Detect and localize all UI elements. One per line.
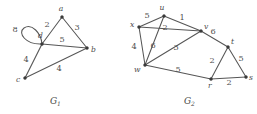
weighted-graph-figure: a b c d 2 3 5 4 4 8 G 1 bbox=[0, 0, 257, 114]
weight-x-u: 5 bbox=[144, 10, 149, 20]
vertex-label-r: r bbox=[208, 81, 212, 90]
vertex-b bbox=[86, 47, 89, 50]
vertex-c bbox=[24, 77, 27, 80]
vertex-x bbox=[138, 26, 141, 29]
weight-v-t: 6 bbox=[210, 26, 215, 36]
graph-g2: x u v w t s r 5 1 2 4 6 3 6 5 2 5 2 G 2 bbox=[130, 3, 253, 107]
weight-d-a: 2 bbox=[44, 19, 49, 29]
vertex-u bbox=[163, 15, 166, 18]
weight-u-v: 1 bbox=[179, 12, 184, 22]
vertex-label-c: c bbox=[16, 75, 21, 84]
weight-loop-d: 8 bbox=[12, 24, 17, 34]
weight-w-r: 5 bbox=[175, 64, 180, 74]
weight-w-v: 3 bbox=[173, 42, 178, 52]
caption-g1-subscript: 1 bbox=[57, 100, 61, 107]
vertex-label-b: b bbox=[91, 45, 96, 54]
weight-u-w: 2 bbox=[162, 22, 167, 32]
vertex-label-v: v bbox=[204, 22, 209, 31]
edge-d-b bbox=[42, 44, 87, 48]
graph-g1: a b c d 2 3 5 4 4 8 G 1 bbox=[12, 4, 96, 107]
vertex-d bbox=[41, 43, 44, 46]
vertex-label-u: u bbox=[160, 3, 165, 12]
weight-a-b: 3 bbox=[74, 22, 79, 32]
vertex-label-w: w bbox=[134, 65, 141, 74]
vertex-w bbox=[144, 64, 147, 67]
weight-d-c: 4 bbox=[23, 54, 28, 64]
vertex-label-t: t bbox=[231, 37, 235, 46]
weight-r-s: 2 bbox=[226, 77, 231, 87]
vertex-label-x: x bbox=[130, 20, 135, 29]
vertex-label-d: d bbox=[38, 31, 43, 40]
weight-d-b: 5 bbox=[59, 34, 64, 44]
vertex-label-a: a bbox=[59, 4, 64, 13]
weight-t-r: 2 bbox=[209, 55, 214, 65]
weight-c-b: 4 bbox=[56, 63, 61, 73]
edge-x-w bbox=[139, 27, 145, 65]
graph-canvas: a b c d 2 3 5 4 4 8 G 1 bbox=[0, 0, 257, 114]
caption-g2-subscript: 2 bbox=[190, 100, 195, 107]
weight-w-u-six: 6 bbox=[150, 40, 155, 50]
vertex-s bbox=[245, 76, 248, 79]
vertex-v bbox=[200, 30, 203, 33]
weight-t-s: 5 bbox=[238, 53, 243, 63]
vertex-a bbox=[61, 16, 64, 19]
weight-x-w: 4 bbox=[131, 41, 136, 51]
vertex-label-s: s bbox=[249, 73, 253, 82]
vertex-t bbox=[227, 46, 230, 49]
